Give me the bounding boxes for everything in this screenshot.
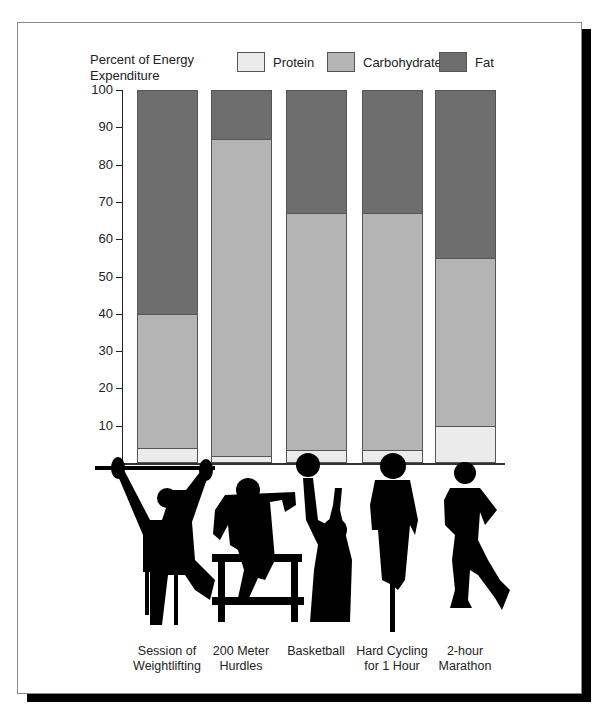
weightlifter-silhouette-icon bbox=[95, 457, 215, 625]
cyclist-silhouette-icon bbox=[370, 453, 418, 632]
runner-silhouette-icon bbox=[444, 462, 510, 610]
hurdler-silhouette-icon bbox=[212, 478, 304, 622]
athlete-silhouettes bbox=[0, 0, 605, 714]
basketball-player-silhouette-icon bbox=[296, 453, 352, 622]
category-label: 2-hourMarathon bbox=[420, 644, 510, 674]
